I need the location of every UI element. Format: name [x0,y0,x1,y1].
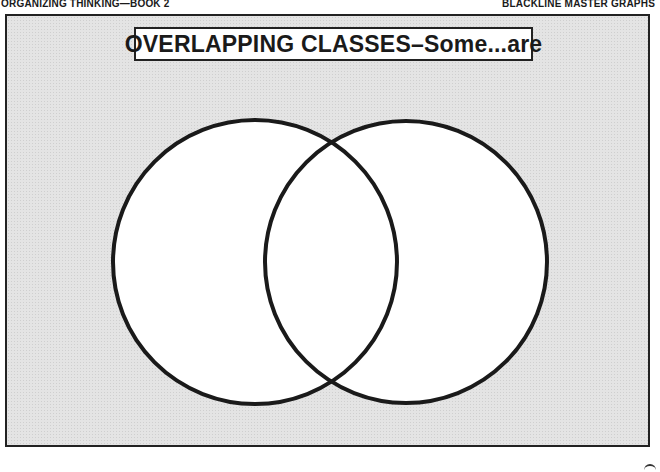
title-box: OVERLAPPING CLASSES–Some...are [134,27,533,61]
page-corner-mark [644,464,656,472]
venn-diagram [0,0,660,472]
diagram-title: OVERLAPPING CLASSES–Some...are [125,31,543,58]
